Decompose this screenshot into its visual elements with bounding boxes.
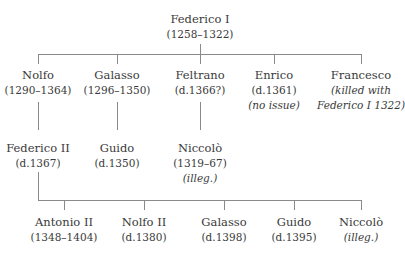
stem-feltrano — [200, 102, 201, 130]
dates: (1319–67) — [173, 156, 227, 171]
node-federico-i: Federico I (1258–1322) — [167, 12, 234, 42]
node-enrico: Enrico (d.1361) (no issue) — [248, 68, 300, 113]
name: Niccolò — [339, 215, 383, 230]
node-antonio-ii: Antonio II (1348–1404) — [31, 215, 98, 245]
dates: (d.1380) — [122, 230, 167, 245]
node-niccolo: Niccolò (1319–67) (illeg.) — [173, 141, 227, 186]
name: Feltrano — [175, 68, 226, 83]
note: (illeg.) — [173, 171, 227, 186]
dates: (d.1367) — [6, 156, 70, 171]
tick-nolfo-ii — [144, 200, 145, 210]
name: Guido — [95, 141, 140, 156]
tick-galasso — [117, 54, 118, 64]
dates: (d.1395) — [272, 230, 317, 245]
tick-enrico — [274, 54, 275, 64]
node-guido: Guido (d.1350) — [95, 141, 140, 171]
note: (illeg.) — [339, 230, 383, 245]
note-2: Federico I 1322) — [317, 98, 405, 113]
node-niccolo-2: Niccolò (illeg.) — [339, 215, 383, 245]
tick-feltrano — [200, 54, 201, 64]
dates: (d.1366?) — [175, 83, 226, 98]
node-feltrano: Feltrano (d.1366?) — [175, 68, 226, 98]
name: Nolfo II — [122, 215, 167, 230]
node-nolfo-ii: Nolfo II (d.1380) — [122, 215, 167, 245]
dates: (1290–1364) — [5, 83, 72, 98]
dates: (1348–1404) — [31, 230, 98, 245]
node-nolfo: Nolfo (1290–1364) — [5, 68, 72, 98]
node-federico-ii: Federico II (d.1367) — [6, 141, 70, 171]
node-galasso-2: Galasso (d.1398) — [201, 215, 246, 245]
tick-niccolo-2 — [361, 200, 362, 210]
node-francesco: Francesco (killed with Federico I 1322) — [317, 68, 405, 113]
name: Antonio II — [31, 215, 98, 230]
note: (no issue) — [248, 98, 300, 113]
name: Francesco — [317, 68, 405, 83]
name: Federico I — [167, 12, 234, 27]
name: Galasso — [84, 68, 151, 83]
dates: (1296–1350) — [84, 83, 151, 98]
name: Niccolò — [173, 141, 227, 156]
dates: (d.1361) — [248, 83, 300, 98]
note-1: (killed with — [317, 83, 405, 98]
stem-galasso — [117, 102, 118, 130]
name: Guido — [272, 215, 317, 230]
tick-antonio — [64, 200, 65, 210]
tick-galasso-2 — [224, 200, 225, 210]
name: Enrico — [248, 68, 300, 83]
name: Galasso — [201, 215, 246, 230]
node-galasso: Galasso (1296–1350) — [84, 68, 151, 98]
dates: (d.1398) — [201, 230, 246, 245]
stem-nolfo — [38, 102, 39, 130]
name: Federico II — [6, 141, 70, 156]
name: Nolfo — [5, 68, 72, 83]
tick-francesco — [361, 54, 362, 64]
node-guido-2: Guido (d.1395) — [272, 215, 317, 245]
tick-nolfo — [38, 54, 39, 64]
gen4-bar — [38, 200, 362, 201]
dates: (1258–1322) — [167, 27, 234, 42]
tick-guido-2 — [294, 200, 295, 210]
dates: (d.1350) — [95, 156, 140, 171]
stem-federico-ii — [38, 172, 39, 201]
